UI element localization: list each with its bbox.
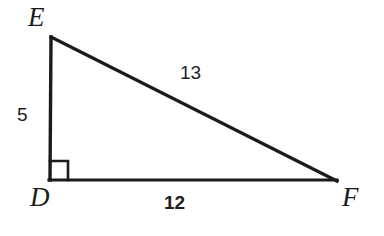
side-length-label-EF: 13 <box>180 63 201 82</box>
side-DE-vertical-leg <box>50 37 51 180</box>
vertex-label-F: F <box>342 184 359 211</box>
side-length-label-DF: 12 <box>164 193 185 212</box>
vertex-label-D: D <box>30 184 50 211</box>
side-length-label-DE: 5 <box>17 105 28 124</box>
diagram-canvas: E D F 5 13 12 <box>0 0 384 236</box>
vertex-label-E: E <box>28 4 45 31</box>
triangle-figure <box>0 0 384 236</box>
